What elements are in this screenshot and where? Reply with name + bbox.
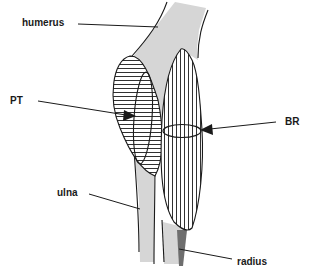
label-ulna: ulna — [57, 188, 78, 198]
ulna-leader-line — [89, 194, 140, 209]
label-radius: radius — [237, 257, 267, 267]
humerus-leader-line — [78, 24, 158, 27]
label-humerus: humerus — [22, 18, 64, 28]
radius-leader-line — [179, 249, 232, 259]
br-leader-line — [210, 122, 276, 129]
forearm-diagram — [0, 0, 311, 276]
label-br: BR — [285, 117, 299, 127]
pt-leader-line — [38, 101, 126, 115]
label-pt: PT — [10, 96, 23, 106]
